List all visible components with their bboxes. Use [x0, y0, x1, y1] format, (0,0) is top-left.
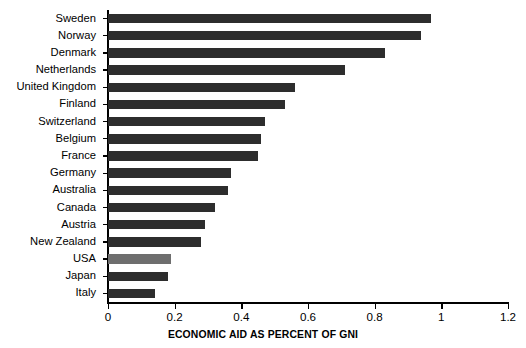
bar-japan [108, 272, 168, 281]
bar-row: Denmark [108, 44, 508, 61]
category-label-italy: Italy [0, 287, 96, 298]
category-label-australia: Australia [0, 184, 96, 195]
x-axis-tick [175, 303, 176, 309]
bar-denmark [108, 48, 385, 57]
x-axis-tick-label: 1.2 [500, 310, 516, 323]
bar-germany [108, 168, 231, 177]
bar-australia [108, 186, 228, 195]
bar-norway [108, 31, 421, 40]
bar-row: New Zealand [108, 233, 508, 250]
category-label-switzerland: Switzerland [0, 116, 96, 127]
bar-france [108, 151, 258, 160]
x-axis-tick-label: 0.4 [233, 310, 249, 323]
bar-row: USA [108, 250, 508, 267]
bar-row: Norway [108, 27, 508, 44]
bar-row: Italy [108, 285, 508, 302]
x-axis-tick-label: 0.6 [300, 310, 316, 323]
economic-aid-bar-chart: SwedenNorwayDenmarkNetherlandsUnited Kin… [0, 0, 526, 348]
bar-row: Netherlands [108, 62, 508, 79]
x-axis-tick [241, 303, 242, 309]
bar-row: Canada [108, 199, 508, 216]
x-axis-tick [108, 303, 109, 309]
category-label-united-kingdom: United Kingdom [0, 81, 96, 92]
category-label-belgium: Belgium [0, 133, 96, 144]
bar-row: Sweden [108, 10, 508, 27]
category-label-sweden: Sweden [0, 13, 96, 24]
bar-belgium [108, 134, 261, 143]
bar-austria [108, 220, 205, 229]
bar-italy [108, 289, 155, 298]
bar-row: United Kingdom [108, 79, 508, 96]
bar-row: Germany [108, 165, 508, 182]
bar-switzerland [108, 117, 265, 126]
x-axis-tick-label: 0 [105, 310, 111, 323]
category-label-norway: Norway [0, 30, 96, 41]
category-label-finland: Finland [0, 98, 96, 109]
bar-row: Finland [108, 96, 508, 113]
bar-row: Japan [108, 268, 508, 285]
x-axis-tick-label: 1 [438, 310, 444, 323]
bar-netherlands [108, 65, 345, 74]
x-axis-tick-label: 0.2 [167, 310, 183, 323]
bar-united-kingdom [108, 83, 295, 92]
category-label-france: France [0, 150, 96, 161]
category-label-japan: Japan [0, 270, 96, 281]
category-label-usa: USA [0, 253, 96, 264]
bar-row: France [108, 147, 508, 164]
x-axis-tick [375, 303, 376, 309]
bar-usa [108, 254, 171, 263]
category-label-denmark: Denmark [0, 47, 96, 58]
category-label-netherlands: Netherlands [0, 64, 96, 75]
bar-row: Austria [108, 216, 508, 233]
bar-row: Switzerland [108, 113, 508, 130]
category-label-new-zealand: New Zealand [0, 236, 96, 247]
bar-new-zealand [108, 237, 201, 246]
x-axis-tick [508, 303, 509, 309]
x-axis-title: ECONOMIC AID AS PERCENT OF GNI [0, 329, 526, 340]
bar-row: Belgium [108, 130, 508, 147]
category-label-austria: Austria [0, 219, 96, 230]
x-axis-tick-label: 0.8 [367, 310, 383, 323]
category-label-germany: Germany [0, 167, 96, 178]
x-axis-tick [308, 303, 309, 309]
bar-canada [108, 203, 215, 212]
plot-area: SwedenNorwayDenmarkNetherlandsUnited Kin… [108, 10, 508, 302]
x-axis-tick [441, 303, 442, 309]
category-label-canada: Canada [0, 202, 96, 213]
bar-sweden [108, 14, 431, 23]
bar-row: Australia [108, 182, 508, 199]
bar-finland [108, 100, 285, 109]
